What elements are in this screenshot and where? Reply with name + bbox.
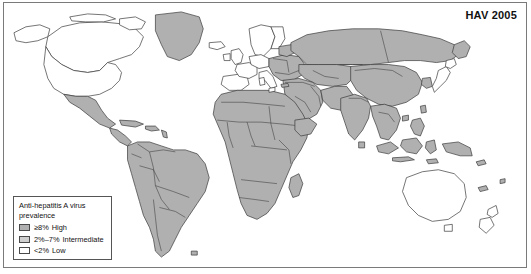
region-new-zealand-north [487, 205, 498, 217]
region-iceland [209, 42, 225, 50]
legend-label-high: ≥8%High [34, 223, 67, 232]
region-greenland [155, 12, 203, 61]
region-java [393, 157, 415, 162]
region-fiji [500, 179, 505, 184]
map-legend: Anti-hepatitis A virus prevalence ≥8%Hig… [13, 196, 112, 260]
region-mexico [64, 94, 116, 128]
region-southeast-asia [371, 104, 401, 140]
region-alaska [14, 25, 50, 43]
legend-range-high: ≥8% [34, 223, 49, 232]
region-madagascar [289, 174, 303, 198]
region-united-kingdom [231, 49, 243, 65]
legend-item-intermediate: 2%–7%Intermediate [19, 234, 107, 244]
legend-label-low: <2%Low [34, 246, 66, 255]
region-africa [213, 90, 309, 219]
region-korea [421, 77, 432, 88]
map-title: HAV 2005 [465, 9, 517, 21]
region-new-zealand-south [479, 217, 494, 233]
region-sardinia-corsica [259, 77, 265, 85]
region-horn-of-africa [295, 118, 317, 136]
region-south-america [128, 142, 210, 257]
legend-range-low: <2% [34, 246, 49, 255]
region-canadian-arctic [70, 14, 116, 22]
legend-name-intermediate: Intermediate [62, 235, 103, 244]
region-taiwan [420, 105, 426, 113]
legend-label-intermediate: 2%–7%Intermediate [34, 235, 104, 244]
region-central-america [110, 128, 132, 146]
region-australia [402, 170, 466, 222]
region-hokkaido [445, 59, 456, 69]
region-sri-lanka [359, 142, 365, 148]
region-falkland-islands [191, 251, 197, 255]
hav-prevalence-map-figure: .hi { fill:#b0b0b0; stroke:#3a3a3a; stro… [0, 0, 531, 274]
legend-title-line2: prevalence [19, 211, 107, 220]
region-solomon-islands [476, 160, 486, 166]
legend-range-intermediate: 2%–7% [34, 235, 59, 244]
legend-item-low: <2%Low [19, 246, 107, 256]
region-cuba [120, 120, 144, 127]
region-sicily [269, 87, 275, 92]
region-hainan [402, 115, 408, 121]
region-philippines [410, 118, 424, 136]
region-russia [291, 29, 458, 65]
legend-swatch-low [19, 247, 30, 254]
region-hispaniola [145, 126, 159, 131]
region-timor [426, 159, 438, 164]
region-ireland [223, 54, 230, 61]
region-japan [432, 67, 450, 93]
legend-swatch-intermediate [19, 236, 30, 243]
region-papua-new-guinea [442, 142, 472, 156]
legend-swatch-high [19, 224, 30, 231]
region-new-caledonia [478, 186, 488, 192]
region-tasmania [444, 224, 452, 231]
region-lesser-antilles [161, 130, 167, 138]
legend-item-high: ≥8%High [19, 223, 107, 233]
region-cyprus-crete [281, 83, 289, 87]
region-scandinavia [249, 25, 275, 57]
legend-name-high: High [52, 223, 67, 232]
figure-frame: .hi { fill:#b0b0b0; stroke:#3a3a3a; stro… [3, 2, 527, 268]
region-sumatra [377, 142, 399, 154]
region-sulawesi [425, 140, 436, 154]
legend-title-line1: Anti-hepatitis A virus [19, 201, 107, 210]
region-borneo [400, 138, 422, 154]
legend-name-low: Low [52, 246, 66, 255]
